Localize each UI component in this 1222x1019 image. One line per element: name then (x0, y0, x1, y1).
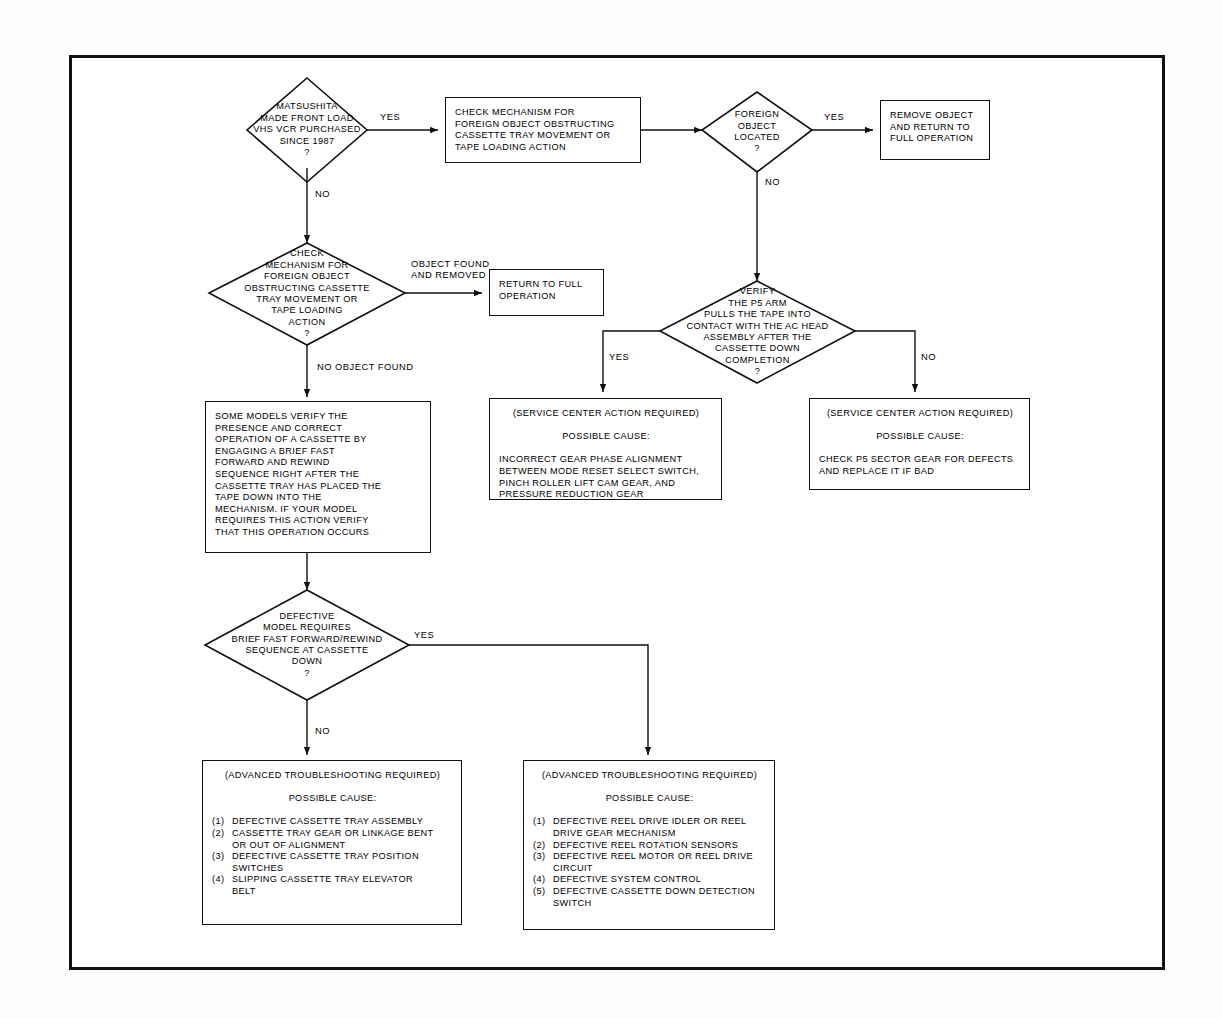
text-line: FOREIGN (735, 109, 779, 120)
process-service-center-p5-sector[interactable]: (SERVICE CENTER ACTION REQUIRED) POSSIBL… (809, 398, 1030, 490)
advanced-tray-list: (1)DEFECTIVE CASSETTE TRAY ASSEMBLY(2)CA… (212, 816, 453, 897)
text-line: ? (304, 147, 309, 158)
edge-label-no-foreign-object: NO (765, 176, 780, 187)
edge-label-no-matsushita: NO (315, 188, 330, 199)
text-line: ? (754, 143, 759, 154)
text-line: ENGAGING A BRIEF FAST (215, 446, 422, 458)
cause-list-item: (3)DEFECTIVE CASSETTE TRAY POSITION SWIT… (212, 851, 453, 874)
text-line: OBJECT (738, 121, 776, 132)
cause-item-text: DEFECTIVE CASSETTE TRAY ASSEMBLY (232, 816, 453, 828)
text-line: BETWEEN MODE RESET SELECT SWITCH, (499, 466, 713, 478)
text-line: SEQUENCE RIGHT AFTER THE (215, 469, 422, 481)
process-remove-object-text: REMOVE OBJECTAND RETURN TOFULL OPERATION (881, 101, 989, 151)
text-line: CHECK MECHANISM FOR (455, 107, 632, 119)
cause-list-item: (2)CASSETTE TRAY GEAR OR LINKAGE BENT OR… (212, 828, 453, 851)
service-gear-phase-header: (SERVICE CENTER ACTION REQUIRED) (499, 408, 713, 420)
cause-item-text: DEFECTIVE CASSETTE DOWN DETECTION SWITCH (553, 886, 766, 909)
text-line: PRESSURE REDUCTION GEAR (499, 489, 713, 501)
text-line: DEFECTIVE (280, 611, 335, 622)
text-line: CHECK P5 SECTOR GEAR FOR DEFECTS (819, 454, 1021, 466)
process-advanced-reel[interactable]: (ADVANCED TROUBLESHOOTING REQUIRED) POSS… (523, 760, 775, 930)
cause-item-number: (2) (533, 840, 553, 852)
text-line: FOREIGN OBJECT (264, 271, 350, 282)
text-line: OPERATION (499, 291, 595, 303)
service-p5-sector-header: (SERVICE CENTER ACTION REQUIRED) (819, 408, 1021, 420)
text-line: CHECK (290, 248, 324, 259)
text-line: CASSETTE TRAY MOVEMENT OR (455, 130, 632, 142)
text-line: FULL OPERATION (890, 133, 981, 145)
text-line: MECHANISM. IF YOUR MODEL (215, 504, 422, 516)
edge-label-yes-verify-p5: YES (609, 351, 629, 362)
cause-item-text: DEFECTIVE REEL DRIVE IDLER OR REEL DRIVE… (553, 816, 766, 839)
text-line: OBSTRUCTING CASSETTE (244, 283, 369, 294)
text-line: PRESENCE AND CORRECT (215, 423, 422, 435)
text-line: ? (304, 328, 309, 339)
decision-defective-model-label: DEFECTIVEMODEL REQUIRESBRIEF FAST FORWAR… (205, 590, 409, 700)
service-p5-sector-body: CHECK P5 SECTOR GEAR FOR DEFECTSAND REPL… (819, 454, 1021, 477)
decision-defective-model[interactable]: DEFECTIVEMODEL REQUIRESBRIEF FAST FORWAR… (205, 590, 409, 700)
cause-item-text: DEFECTIVE REEL ROTATION SENSORS (553, 840, 766, 852)
text-line: ? (755, 366, 760, 377)
text-line: TAPE LOADING (271, 305, 343, 316)
text-line: PINCH ROLLER LIFT CAM GEAR, AND (499, 478, 713, 490)
cause-item-number: (4) (533, 874, 553, 886)
text-line: REMOVE OBJECT (890, 110, 981, 122)
text-line: FOREIGN OBJECT OBSTRUCTING (455, 119, 632, 131)
process-check-mechanism-top[interactable]: CHECK MECHANISM FORFOREIGN OBJECT OBSTRU… (445, 97, 641, 163)
process-advanced-tray[interactable]: (ADVANCED TROUBLESHOOTING REQUIRED) POSS… (202, 760, 462, 925)
text-line: ACTION (289, 317, 326, 328)
advanced-reel-list: (1)DEFECTIVE REEL DRIVE IDLER OR REEL DR… (533, 816, 766, 909)
text-line: BRIEF FAST FORWARD/REWIND (232, 634, 383, 645)
text-line: SEQUENCE AT CASSETTE (246, 645, 369, 656)
process-remove-object[interactable]: REMOVE OBJECTAND RETURN TOFULL OPERATION (880, 100, 990, 160)
text-line: RETURN TO FULL (499, 279, 595, 291)
service-gear-phase-body: INCORRECT GEAR PHASE ALIGNMENTBETWEEN MO… (499, 454, 713, 500)
advanced-tray-subheader: POSSIBLE CAUSE: (212, 793, 453, 805)
text-line: THAT THIS OPERATION OCCURS (215, 527, 422, 539)
process-service-center-gear-phase[interactable]: (SERVICE CENTER ACTION REQUIRED) POSSIBL… (489, 398, 722, 500)
advanced-reel-header: (ADVANCED TROUBLESHOOTING REQUIRED) (533, 770, 766, 782)
text-line: FORWARD AND REWIND (215, 457, 422, 469)
text-line: ? (304, 668, 309, 679)
cause-item-number: (2) (212, 828, 232, 851)
edge-label-object-found-removed: OBJECT FOUND AND REMOVED (411, 258, 489, 281)
text-line: TAPE LOADING ACTION (455, 142, 632, 154)
text-line: MADE FRONT LOAD (260, 113, 354, 124)
text-line: TAPE DOWN INTO THE (215, 492, 422, 504)
text-line: PULLS THE TAPE INTO (704, 309, 811, 320)
text-line: SOME MODELS VERIFY THE (215, 411, 422, 423)
cause-item-number: (1) (533, 816, 553, 839)
cause-list-item: (1)DEFECTIVE REEL DRIVE IDLER OR REEL DR… (533, 816, 766, 839)
text-line: OPERATION OF A CASSETTE BY (215, 434, 422, 446)
decision-check-mechanism[interactable]: CHECKMECHANISM FORFOREIGN OBJECTOBSTRUCT… (209, 243, 405, 345)
process-return-full-operation[interactable]: RETURN TO FULLOPERATION (489, 269, 604, 316)
edge-label-yes-foreign-object: YES (824, 111, 844, 122)
decision-matsushita[interactable]: MATSUSHITAMADE FRONT LOADVHS VCR PURCHAS… (247, 78, 367, 182)
cause-item-number: (3) (212, 851, 232, 874)
text-line: DOWN (292, 656, 323, 667)
cause-list-item: (3)DEFECTIVE REEL MOTOR OR REEL DRIVE CI… (533, 851, 766, 874)
text-line: CONTACT WITH THE AC HEAD (686, 321, 828, 332)
advanced-reel-subheader: POSSIBLE CAUSE: (533, 793, 766, 805)
cause-list-item: (4)SLIPPING CASSETTE TRAY ELEVATOR BELT (212, 874, 453, 897)
cause-list-item: (4)DEFECTIVE SYSTEM CONTROL (533, 874, 766, 886)
text-line: CASSETTE TRAY HAS PLACED THE (215, 481, 422, 493)
decision-verify-p5-arm[interactable]: VERIFYTHE P5 ARMPULLS THE TAPE INTOCONTA… (660, 281, 855, 383)
cause-item-number: (1) (212, 816, 232, 828)
decision-foreign-object-located[interactable]: FOREIGNOBJECTLOCATED? (702, 92, 812, 172)
edge-label-no-verify-p5: NO (921, 351, 936, 362)
decision-check-mechanism-label: CHECKMECHANISM FORFOREIGN OBJECTOBSTRUCT… (209, 243, 405, 345)
cause-item-text: DEFECTIVE SYSTEM CONTROL (553, 874, 766, 886)
decision-verify-p5-arm-label: VERIFYTHE P5 ARMPULLS THE TAPE INTOCONTA… (660, 281, 855, 383)
cause-item-number: (4) (212, 874, 232, 897)
text-line: ASSEMBLY AFTER THE (703, 332, 811, 343)
cause-item-number: (5) (533, 886, 553, 909)
text-line: INCORRECT GEAR PHASE ALIGNMENT (499, 454, 713, 466)
text-line: AND REPLACE IT IF BAD (819, 466, 1021, 478)
text-line: VERIFY (740, 286, 775, 297)
text-line: TRAY MOVEMENT OR (256, 294, 357, 305)
text-line: AND RETURN TO (890, 122, 981, 134)
cause-item-text: DEFECTIVE REEL MOTOR OR REEL DRIVE CIRCU… (553, 851, 766, 874)
process-return-full-operation-text: RETURN TO FULLOPERATION (490, 270, 603, 308)
process-some-models-verify[interactable]: SOME MODELS VERIFY THEPRESENCE AND CORRE… (205, 401, 431, 553)
